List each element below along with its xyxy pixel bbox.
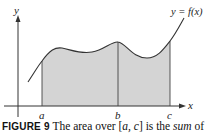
area-plot: [0, 0, 207, 118]
shaded-area: [42, 41, 170, 106]
caption-text-middle: ] is the: [139, 120, 173, 132]
x-axis-label: x: [188, 100, 193, 111]
caption-text-before: The area over [: [52, 120, 122, 132]
curve-label: y = f(x): [171, 7, 203, 18]
y-axis-arrow-icon: [16, 15, 21, 22]
x-axis-arrow-icon: [179, 104, 186, 109]
caption-text-after: of: [192, 120, 204, 132]
y-axis-label: y: [14, 5, 19, 16]
figure-number: FIGURE 9: [2, 121, 50, 132]
caption-interval: a, c: [122, 120, 139, 132]
caption-emphasis: sum: [173, 120, 192, 132]
figure-diagram: y x y = f(x) a b c: [0, 0, 207, 118]
figure-caption: FIGURE 9 The area over [a, c] is the sum…: [2, 120, 207, 133]
